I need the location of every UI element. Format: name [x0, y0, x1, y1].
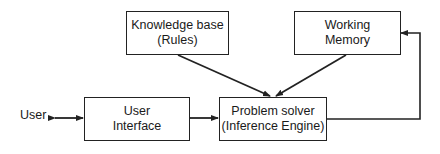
user-label: User: [20, 108, 46, 122]
user-interface-line1: User: [124, 104, 150, 119]
edge-kb-to-ps: [178, 55, 270, 96]
edge-wm-to-ps: [276, 55, 346, 96]
working-memory-line2: Memory: [325, 33, 370, 48]
problem-solver-node: Problem solver (Inference Engine): [219, 97, 327, 141]
working-memory-line1: Working: [325, 18, 371, 33]
user-interface-node: User Interface: [84, 97, 190, 141]
user-interface-line2: Interface: [113, 119, 162, 134]
knowledge-base-line2: (Rules): [157, 33, 197, 48]
working-memory-node: Working Memory: [294, 11, 401, 55]
problem-solver-line1: Problem solver: [231, 104, 314, 119]
knowledge-base-node: Knowledge base (Rules): [126, 11, 229, 55]
problem-solver-line2: (Inference Engine): [222, 119, 325, 134]
knowledge-base-line1: Knowledge base: [131, 18, 223, 33]
